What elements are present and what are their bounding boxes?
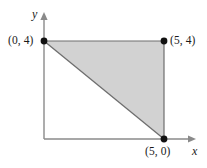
figure-canvas <box>0 0 207 168</box>
point-label-5-4: (5, 4) <box>170 34 196 46</box>
y-axis-label: y <box>32 7 37 22</box>
x-axis-label: x <box>192 144 197 159</box>
vertex-marker-5-4 <box>161 38 168 45</box>
point-label-5-0: (5, 0) <box>145 145 171 157</box>
vertex-marker-5-0 <box>161 136 168 143</box>
y-axis-arrow-icon <box>40 12 47 20</box>
coordinate-figure: (0, 4) (5, 4) (5, 0) y x <box>0 0 207 168</box>
vertex-marker-0-4 <box>41 38 48 45</box>
point-label-0-4: (0, 4) <box>8 34 34 46</box>
x-axis-arrow-icon <box>188 135 196 142</box>
